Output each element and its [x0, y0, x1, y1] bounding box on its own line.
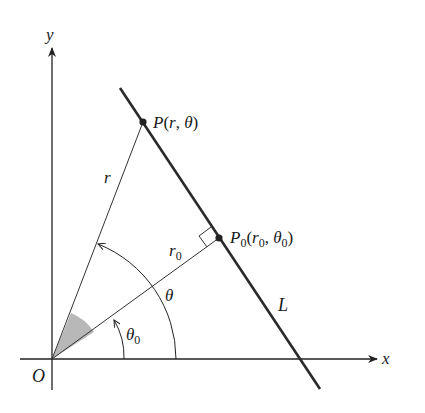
origin-label: O: [32, 366, 45, 386]
theta0-arc: [114, 320, 124, 359]
theta-label: θ: [165, 286, 173, 305]
y-axis-label: y: [44, 25, 54, 44]
segment-r-label: r: [104, 168, 111, 187]
point-P0: [215, 234, 222, 241]
point-P-label: P(r, θ): [152, 113, 198, 132]
shaded-sector: [52, 313, 94, 359]
theta0-label: θ0: [126, 325, 140, 347]
point-P: [139, 118, 146, 125]
segment-r: [52, 122, 143, 359]
polar-line-diagram: y x O L P(r, θ) P0(r0, θ0) r r0 θ θ0: [0, 0, 425, 413]
segment-r0-label: r0: [169, 241, 182, 263]
x-axis-label: x: [381, 349, 390, 368]
point-P0-label: P0(r0, θ0): [229, 228, 293, 250]
line-L-label: L: [277, 295, 288, 315]
right-angle-marker: [199, 227, 211, 247]
